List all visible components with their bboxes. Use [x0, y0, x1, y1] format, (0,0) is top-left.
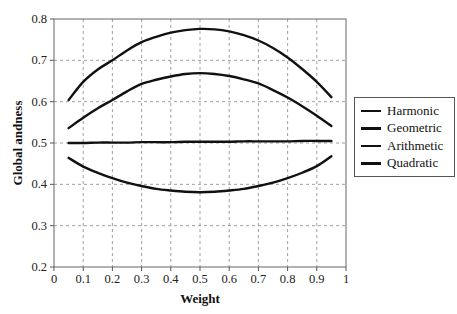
x-tick-label: 0.7: [251, 272, 267, 286]
y-tick-label: 0.4: [31, 177, 47, 191]
legend-swatch-quadratic: [361, 162, 381, 165]
legend-label-harmonic: Harmonic: [387, 103, 439, 119]
series-line-harmonic: [69, 156, 332, 192]
legend-swatch-geometric: [361, 127, 381, 130]
legend-swatch-harmonic: [361, 110, 381, 113]
y-tick-label: 0.5: [31, 136, 47, 150]
x-tick-label: 0.2: [105, 272, 121, 286]
legend-label-geometric: Geometric: [387, 120, 442, 136]
legend: Harmonic Geometric Arithmetic Quadratic: [354, 97, 455, 177]
legend-item-harmonic: Harmonic: [359, 102, 454, 120]
y-tick-label: 0.3: [31, 219, 47, 233]
y-tick-label: 0.7: [31, 53, 47, 67]
legend-label-quadratic: Quadratic: [387, 155, 438, 171]
legend-item-quadratic: Quadratic: [359, 155, 454, 173]
x-axis-label: Weight: [180, 291, 220, 306]
legend-swatch-arithmetic: [361, 145, 381, 148]
legend-item-geometric: Geometric: [359, 120, 454, 138]
plot-frame: [50, 19, 346, 271]
legend-label-arithmetic: Arithmetic: [387, 138, 443, 154]
y-axis-label: Global andness: [10, 101, 25, 186]
series-line-arithmetic: [69, 141, 332, 143]
x-tick-label: 0.1: [75, 272, 91, 286]
y-tick-label: 0.2: [31, 260, 47, 274]
y-tick-label: 0.8: [31, 12, 47, 26]
x-tick-label: 0.9: [309, 272, 325, 286]
x-tick-labels: 00.10.20.30.40.50.60.70.80.91: [51, 272, 349, 286]
legend-item-arithmetic: Arithmetic: [359, 137, 454, 155]
x-tick-label: 0.6: [221, 272, 237, 286]
x-tick-label: 0.5: [192, 272, 208, 286]
x-tick-label: 0: [51, 272, 57, 286]
x-tick-label: 1: [343, 272, 349, 286]
x-tick-label: 0.3: [134, 272, 150, 286]
y-tick-labels: 0.20.30.40.50.60.70.8: [31, 12, 47, 274]
x-tick-label: 0.4: [163, 272, 179, 286]
y-tick-label: 0.6: [31, 95, 47, 109]
x-tick-label: 0.8: [280, 272, 296, 286]
